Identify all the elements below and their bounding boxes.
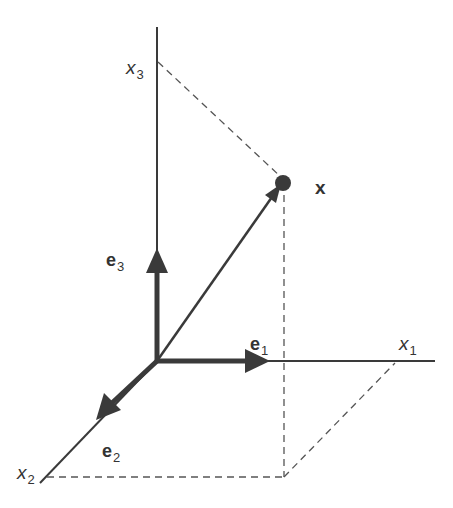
point-x-label: x xyxy=(315,178,326,197)
e2-label-subscript: 2 xyxy=(113,450,120,465)
coordinate-system-diagram: x3 x1 x2 e3 e1 e2 x xyxy=(0,0,453,508)
e3-arrowhead xyxy=(146,248,168,273)
point-x xyxy=(275,175,291,191)
x1-label-subscript: 1 xyxy=(410,343,417,358)
x1-axis-label: x1 xyxy=(399,334,417,353)
x3-label-base: x xyxy=(126,57,136,78)
e2-vector xyxy=(112,361,157,403)
e2-label: e2 xyxy=(102,442,120,460)
x1-label-base: x xyxy=(399,333,409,354)
e1-label-subscript: 1 xyxy=(261,343,268,358)
x2-label-subscript: 2 xyxy=(28,472,35,487)
e3-label-base: e xyxy=(106,250,116,270)
e3-label-subscript: 3 xyxy=(117,259,124,274)
e3-label: e3 xyxy=(106,251,124,269)
x2-label-base: x xyxy=(17,462,27,483)
e1-label: e1 xyxy=(250,335,268,353)
diagram-graphics xyxy=(0,0,453,508)
x3-label-subscript: 3 xyxy=(137,67,144,82)
x2-axis-label: x2 xyxy=(17,463,35,482)
e2-label-base: e xyxy=(102,441,112,461)
x3-axis-label: x3 xyxy=(126,58,144,77)
projection-dashed-diagonal xyxy=(284,363,395,477)
e1-label-base: e xyxy=(250,334,260,354)
projection-dashed-x3 xyxy=(158,62,282,178)
